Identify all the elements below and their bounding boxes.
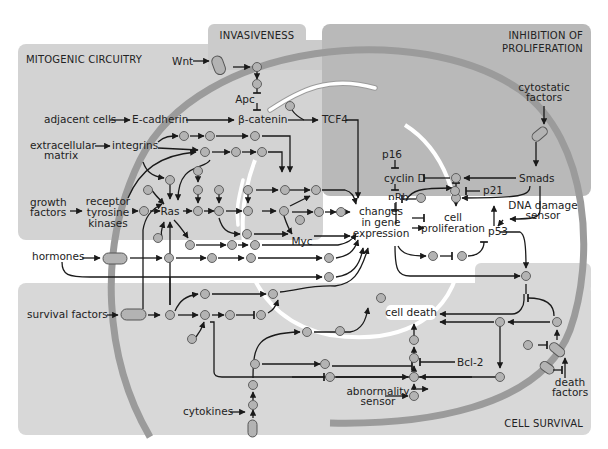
label-survival-factors: survival factors (27, 308, 108, 320)
label-cytokines: cytokines (183, 405, 233, 417)
label-wnt: Wnt (172, 55, 193, 67)
label-p21: p21 (483, 184, 503, 196)
label-adjacent-cells: adjacent cells (44, 113, 116, 125)
panel-title-cell-survival: CELL SURVIVAL (504, 418, 583, 429)
label-p16: p16 (382, 148, 402, 160)
label-apc: Apc (235, 93, 255, 105)
label-beta-catenin: β-catenin (238, 113, 288, 125)
label-kinases: kinases (88, 217, 128, 229)
label-p53: p53 (488, 225, 508, 237)
label-proliferation: proliferation (421, 222, 485, 234)
label-tcf4: TCF4 (321, 113, 348, 125)
survival-receptor (121, 309, 146, 320)
label-factors: factors (30, 206, 66, 218)
panel-title-mitogenic: MITOGENIC CIRCUITRY (26, 54, 143, 65)
panel-title-inhibition-2: PROLIFERATION (502, 43, 583, 54)
label-cyclin-d: cyclin D (384, 172, 426, 184)
label-e-cadherin: E-cadherin (132, 113, 188, 125)
label-hormones: hormones (32, 250, 84, 262)
cytokine-receptor (248, 420, 257, 437)
label-bcl2: Bcl-2 (457, 356, 483, 368)
panel-title-inhibition-1: INHIBITION OF (508, 30, 583, 41)
label-death-factors: factors (552, 386, 588, 398)
label-dna-sensor: sensor (526, 209, 561, 221)
cancer-signaling-diagram: MITOGENIC CIRCUITRY INVASIVENESS INHIBIT… (0, 0, 608, 449)
label-expression: expression (353, 227, 410, 239)
label-cytostatic-factors: factors (526, 91, 562, 103)
label-matrix: matrix (44, 149, 78, 161)
label-ras: Ras (161, 205, 180, 217)
label-abnormality-sensor: sensor (361, 395, 396, 407)
panel-cell-survival (18, 263, 591, 435)
label-integrins: integrins (112, 139, 158, 151)
label-smads: Smads (519, 172, 554, 184)
panel-title-invasiveness: INVASIVENESS (220, 30, 295, 41)
label-cell-death: cell death (385, 306, 437, 318)
hormone-receptor (103, 253, 127, 264)
